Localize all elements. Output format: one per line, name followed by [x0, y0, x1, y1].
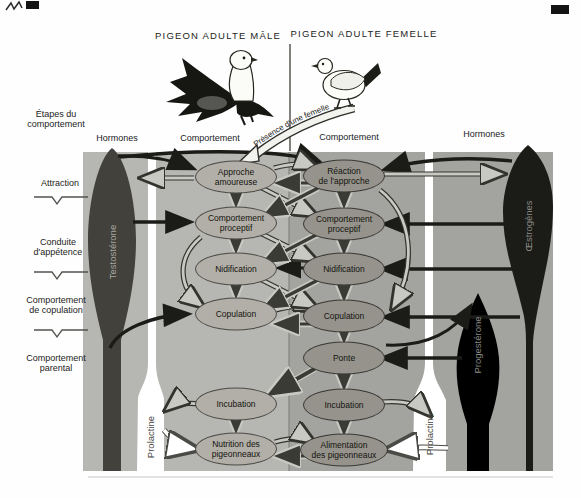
male-pigeon-illustration	[166, 51, 274, 126]
title-male: PIGEON ADULTE MÂLE	[155, 31, 281, 42]
label-estrogens: Œstrogènes	[523, 200, 534, 251]
label-prolactin-right: Prolactine	[424, 413, 435, 455]
node-female-copulation: Copulation	[303, 300, 385, 333]
stage-attraction: Attraction	[41, 178, 79, 188]
arrow-prolactin-to-alimentation	[390, 447, 448, 449]
chevron-2	[34, 272, 88, 279]
header-hormones-right: Hormones	[463, 129, 505, 139]
pigeon-hormone-behavior-diagram: Présence d'une femelle PIGEON ADULTE MÂL…	[0, 0, 581, 498]
node-male-copulation: Copulation	[195, 298, 277, 331]
node-male-incubation: Incubation	[195, 388, 277, 421]
female-pigeon-illustration	[311, 59, 381, 109]
label-prolactin-left: Prolactine	[145, 416, 156, 458]
diagram-graphics: Présence d'une femelle	[0, 0, 581, 498]
node-female-ponte: Ponte	[303, 342, 385, 375]
node-male-approche-amoureuse: Approche amoureuse	[195, 161, 277, 194]
node-male-comportement-proceptif: Comportement proceptif	[195, 207, 277, 240]
title-female: PIGEON ADULTE FEMELLE	[291, 29, 438, 40]
node-female-nidification: Nidification	[303, 253, 385, 286]
header-stages: Étapes du comportement	[27, 109, 85, 130]
header-behavior-right: Comportement	[319, 132, 379, 142]
label-progesterone: Progestérone	[472, 316, 483, 373]
header-hormones-left: Hormones	[96, 133, 138, 143]
node-male-nutrition-pigeonneaux: Nutrition des pigeonneaux	[195, 433, 277, 466]
header-behavior-left: Comportement	[180, 133, 240, 143]
chevron-1	[34, 197, 88, 204]
stage-comportement-copulation: Comportement de copulation	[26, 295, 86, 316]
stage-conduite-appetence: Conduite d'appétence	[34, 237, 83, 258]
node-female-reaction-approche: Réaction de l'approche	[303, 160, 385, 193]
stage-chevrons	[34, 197, 88, 337]
label-testosterone: Testostérone	[107, 225, 118, 279]
node-female-incubation: Incubation	[303, 389, 385, 422]
chevron-3	[34, 330, 88, 337]
print-marks	[6, 1, 569, 14]
node-female-comportement-proceptif: Comportement proceptif	[303, 208, 385, 241]
node-male-nidification: Nidification	[195, 253, 277, 286]
node-female-alimentation-pigeonneaux: Alimentation des pigeonneaux	[300, 434, 388, 467]
stage-comportement-parental: Comportement parental	[26, 353, 86, 374]
